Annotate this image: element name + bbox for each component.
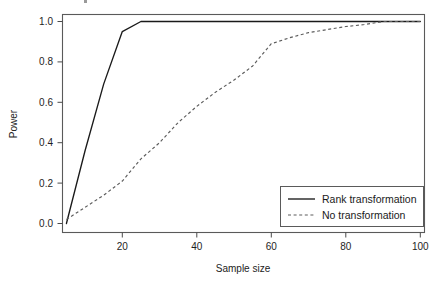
y-tick-label: 0.2 (39, 178, 53, 189)
x-axis-title: Sample size (216, 263, 271, 274)
legend-label-rank-transformation: Rank transformation (322, 193, 417, 205)
y-tick-label: 0.4 (39, 137, 53, 148)
y-tick-label: 1.0 (39, 16, 53, 27)
power-curve-figure: 1.0 0.8 0.6 0.4 0.2 0.0 20 40 60 80 100 … (0, 0, 439, 289)
x-tick-label: 40 (191, 241, 203, 252)
chart-svg: 1.0 0.8 0.6 0.4 0.2 0.0 20 40 60 80 100 … (0, 0, 439, 289)
legend-label-no-transformation: No transformation (322, 209, 406, 221)
figure-background (0, 0, 439, 289)
y-axis-title: Power (8, 109, 19, 138)
x-tick-label: 100 (412, 241, 429, 252)
cropped-title-artifact (84, 0, 87, 3)
y-tick-label: 0.0 (39, 218, 53, 229)
x-tick-label: 80 (340, 241, 352, 252)
y-tick-label: 0.8 (39, 56, 53, 67)
x-tick-label: 60 (266, 241, 278, 252)
x-tick-label: 20 (117, 241, 129, 252)
y-tick-label: 0.6 (39, 97, 53, 108)
chart-legend: Rank transformation No transformation (281, 187, 424, 227)
